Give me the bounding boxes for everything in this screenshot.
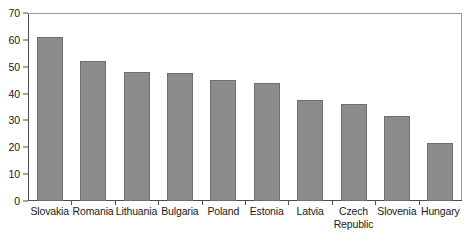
x-tick-label-line: Slovakia <box>30 205 69 217</box>
x-tick-mark <box>71 200 72 205</box>
x-tick-label: Hungary <box>413 205 466 218</box>
x-tick-label-line: Poland <box>207 205 239 217</box>
x-tick-label-line: Hungary <box>421 205 460 217</box>
x-tick-label-line: Bulgaria <box>161 205 198 217</box>
bar <box>210 80 236 201</box>
bar <box>167 73 193 201</box>
x-tick-label-line: Czech <box>339 205 368 217</box>
x-tick-mark <box>332 200 333 205</box>
x-tick-mark <box>288 200 289 205</box>
bar <box>427 143 453 201</box>
x-tick-mark <box>419 200 420 205</box>
x-tick-label-line: Latvia <box>297 205 324 217</box>
x-tick-mark <box>202 200 203 205</box>
bar <box>297 100 323 201</box>
bar <box>37 37 63 201</box>
bar <box>254 83 280 201</box>
y-tick-label: 0 <box>14 195 20 207</box>
x-tick-label-line: Slovenia <box>377 205 416 217</box>
x-tick-label-line: Lithuania <box>116 205 157 217</box>
bar <box>384 116 410 201</box>
cropped-title-remnant <box>0 0 466 4</box>
bar <box>341 104 367 201</box>
y-tick-label: 70 <box>9 7 20 19</box>
bars-group <box>28 13 462 201</box>
x-tick-label-line: Estonia <box>250 205 284 217</box>
x-tick-mark <box>245 200 246 205</box>
bar <box>80 61 106 201</box>
y-tick-label: 60 <box>9 34 20 46</box>
y-tick-label: 30 <box>9 114 20 126</box>
x-tick-mark <box>115 200 116 205</box>
x-tick-mark <box>375 200 376 205</box>
y-tick-label: 10 <box>9 168 20 180</box>
x-tick-mark <box>158 200 159 205</box>
y-tick-label: 50 <box>9 61 20 73</box>
y-tick-label: 40 <box>9 88 20 100</box>
x-axis-labels: SlovakiaRomaniaLithuaniaBulgariaPolandEs… <box>28 205 462 243</box>
x-tick-label-line: Republic <box>326 218 381 231</box>
bar-chart: 010203040506070 SlovakiaRomaniaLithuania… <box>0 0 466 243</box>
bar <box>124 72 150 201</box>
y-tick-label: 20 <box>9 141 20 153</box>
x-tick-label-line: Romania <box>73 205 114 217</box>
